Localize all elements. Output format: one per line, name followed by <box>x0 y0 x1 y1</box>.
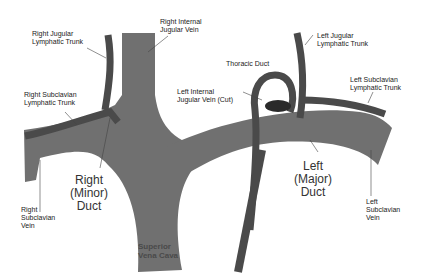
label-left-subclavian-trunk: Left Subclavian Lymphatic Trunk <box>350 76 401 92</box>
label-left-duct: Left (Major) Duct <box>294 160 332 199</box>
label-left-internal-jugular: Left Internal Jugular Vein (Cut) <box>177 88 233 104</box>
label-right-jugular-trunk: Right Jugular Lymphatic Trunk <box>32 30 83 46</box>
label-right-subclavian-trunk: Right Subclavian Lymphatic Trunk <box>24 91 77 107</box>
right-jugular-lymphatic-trunk <box>105 35 110 110</box>
label-left-jugular-trunk: Left Jugular Lymphatic Trunk <box>317 32 368 48</box>
thoracic-duct-lower <box>238 150 262 272</box>
label-left-subclavian-vein: Left Subclavian Vein <box>366 198 400 222</box>
label-right-subclavian-vein: Right Subclavian Vein <box>21 206 55 230</box>
label-svc: Superior Vena Cava <box>138 242 178 260</box>
left-subclavian-vein <box>160 110 392 175</box>
thoracic-duct <box>250 75 293 230</box>
left-jugular-lymphatic-trunk <box>297 33 303 118</box>
label-thoracic-duct: Thoracic Duct <box>226 60 269 68</box>
left-internal-jugular-cut <box>265 100 291 112</box>
label-right-internal-jugular: Right Internal Jugular Vein <box>160 18 202 34</box>
label-right-duct: Right (Minor) Duct <box>70 174 108 213</box>
